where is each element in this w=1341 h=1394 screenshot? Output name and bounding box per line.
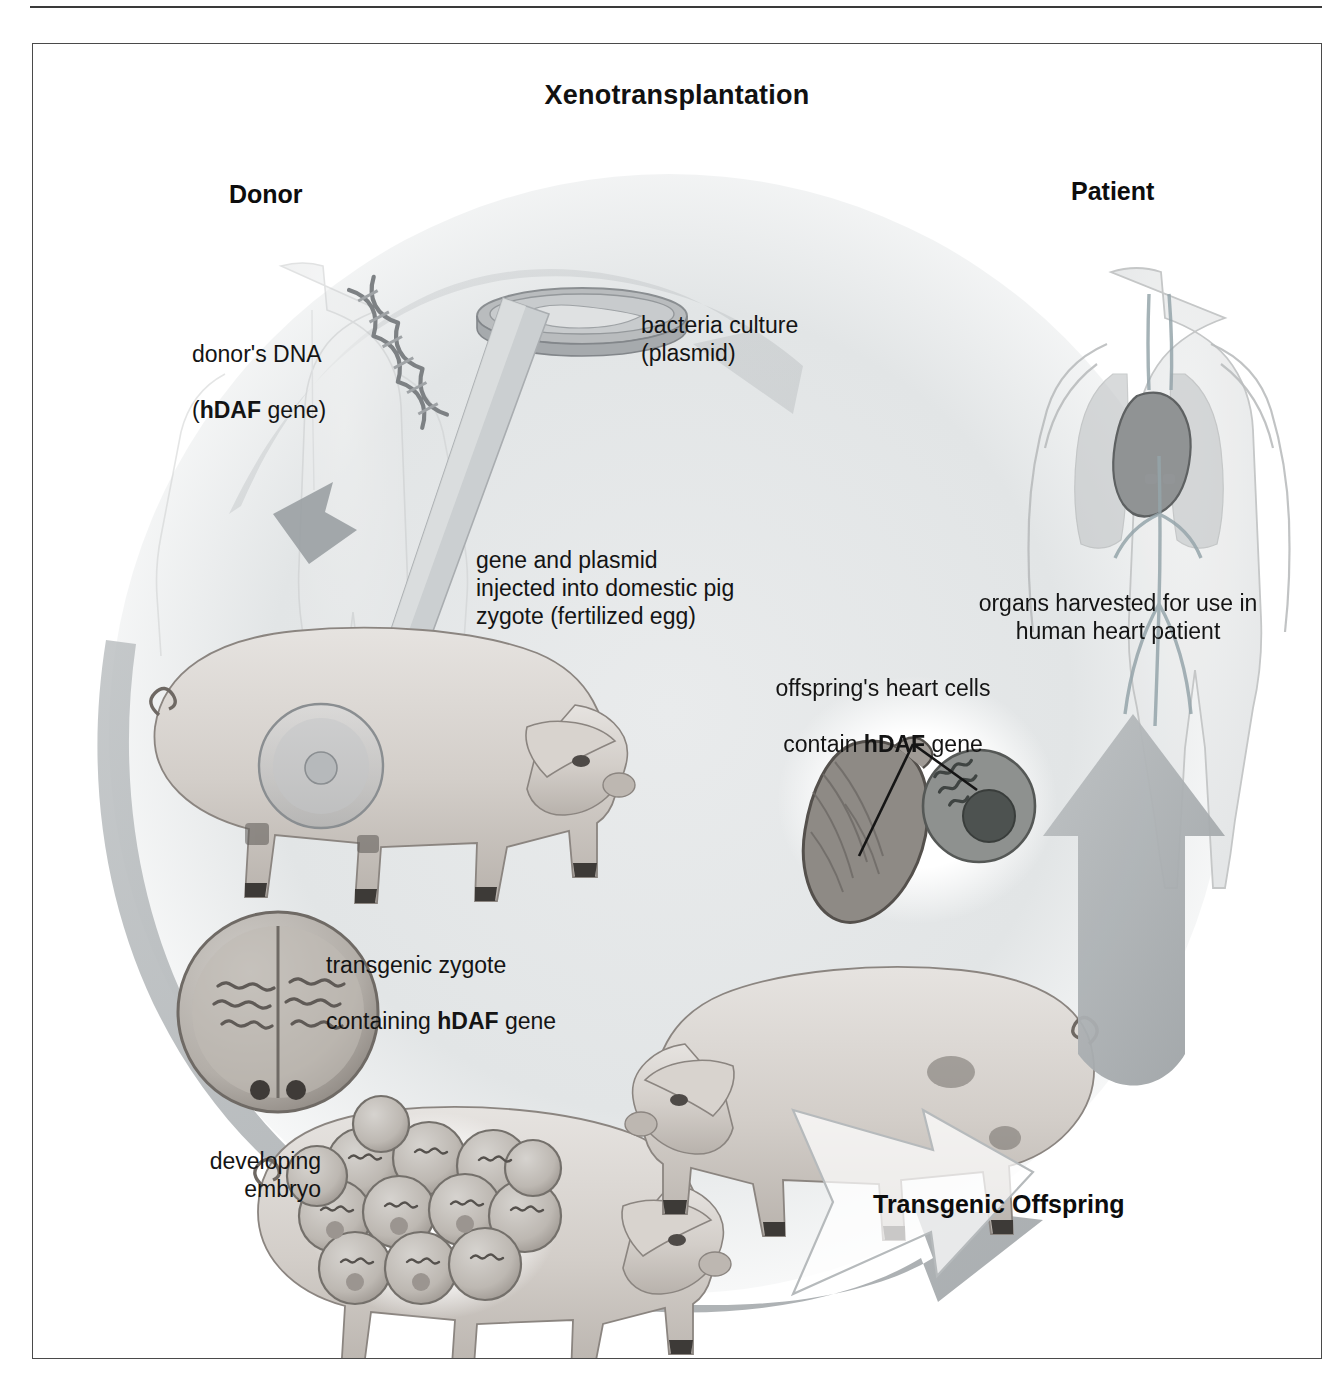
label-transgenic-zygote-line2-head: containing — [326, 1008, 437, 1034]
label-bacteria-culture: bacteria culture (plasmid) — [641, 311, 798, 367]
label-injection: gene and plasmid injected into domestic … — [476, 546, 734, 630]
label-heart-cells-line1: offspring's heart cells — [776, 675, 991, 701]
label-donor-dna-paren-open: ( — [192, 397, 200, 423]
label-heart-cells: offspring's heart cells contain hDAF gen… — [733, 646, 1033, 758]
cell-nucleus-icon — [923, 750, 1035, 862]
label-transgenic-zygote-line2-tail: gene — [499, 1008, 557, 1034]
label-transgenic-zygote-line1: transgenic zygote — [326, 952, 506, 978]
heart-icon — [803, 737, 932, 922]
dna-helix-icon — [349, 277, 447, 428]
label-transgenic-zygote: transgenic zygote containing hDAF gene — [326, 923, 556, 1035]
pig-icon — [255, 1107, 731, 1358]
label-donor-dna-line2-tail: gene) — [261, 397, 326, 423]
heading-transgenic-offspring: Transgenic Offspring — [873, 1190, 1124, 1219]
label-developing-embryo: developing embryo — [111, 1147, 321, 1203]
embryo-cell-cluster-icon — [287, 1096, 561, 1320]
callout-leader-lines — [859, 744, 977, 856]
figure-frame: Xenotransplantation Donor Patient donor'… — [32, 43, 1322, 1359]
page-title: Xenotransplantation — [33, 80, 1321, 111]
label-organs-harvested: organs harvested for use in human heart … — [943, 589, 1293, 645]
pig-icon — [151, 628, 635, 903]
label-donor-dna: donor's DNA (hDAF gene) — [192, 312, 326, 424]
label-heart-cells-line2-tail: gene — [925, 731, 983, 757]
label-donor-dna-line1: donor's DNA — [192, 341, 322, 367]
flow-arrowhead-icon — [273, 482, 357, 564]
human-torso-heart-icon — [1029, 268, 1290, 888]
label-heart-cells-line2-head: contain — [783, 731, 864, 757]
label-donor-dna-gene: hDAF — [200, 397, 261, 423]
up-arrow-icon — [1043, 714, 1225, 1086]
zygote-cell-icon — [259, 704, 383, 828]
heading-donor: Donor — [229, 180, 303, 209]
heading-patient: Patient — [1071, 177, 1154, 206]
label-heart-cells-gene: hDAF — [864, 731, 925, 757]
page-top-rule — [30, 6, 1322, 8]
micropipette-icon — [333, 298, 549, 750]
label-transgenic-zygote-gene: hDAF — [437, 1008, 498, 1034]
